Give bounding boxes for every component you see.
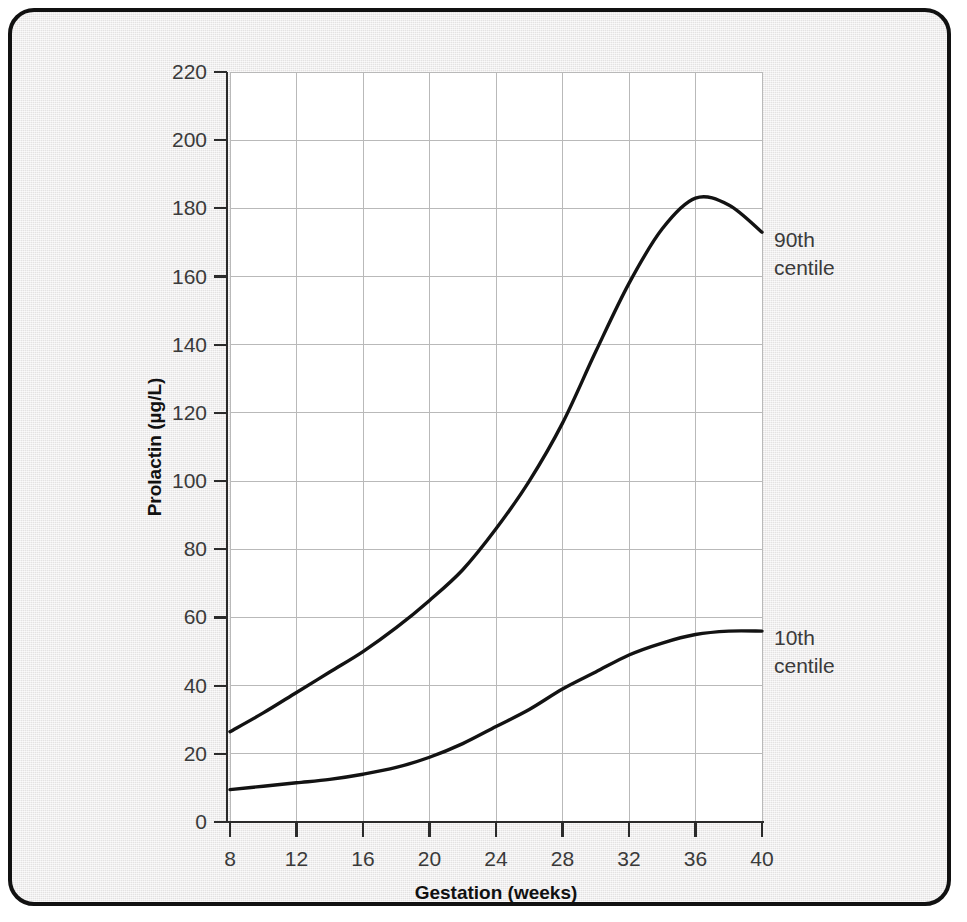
label-90th-centile-line1: 90th: [774, 228, 815, 251]
y-tick-label-40: 40: [184, 674, 207, 697]
x-axis-title: Gestation (weeks): [415, 882, 578, 903]
x-tick-label-20: 20: [418, 847, 441, 870]
y-tick-label-80: 80: [184, 537, 207, 560]
x-axis-tick-labels: 81216202428323640: [224, 847, 774, 870]
label-10th-centile-line2: centile: [774, 654, 835, 677]
x-tick-label-16: 16: [351, 847, 374, 870]
x-tick-label-8: 8: [224, 847, 236, 870]
y-axis-tick-labels: 020406080100120140160180200220: [172, 60, 207, 833]
label-90th-centile-line2: centile: [774, 256, 835, 279]
y-tick-label-100: 100: [172, 469, 207, 492]
x-tick-label-24: 24: [484, 847, 508, 870]
y-tick-label-160: 160: [172, 265, 207, 288]
x-tick-label-32: 32: [617, 847, 640, 870]
y-tick-label-60: 60: [184, 605, 207, 628]
y-tick-label-220: 220: [172, 60, 207, 83]
y-tick-label-180: 180: [172, 196, 207, 219]
x-tick-label-40: 40: [750, 847, 773, 870]
y-axis-title: Prolactin (µg/L): [144, 378, 165, 517]
y-tick-label-0: 0: [195, 810, 207, 833]
y-tick-label-20: 20: [184, 742, 207, 765]
x-tick-label-36: 36: [684, 847, 707, 870]
label-10th-centile-line1: 10th: [774, 626, 815, 649]
y-tick-label-200: 200: [172, 128, 207, 151]
x-tick-label-28: 28: [551, 847, 574, 870]
y-axis-tick-marks: [214, 72, 227, 822]
x-axis-tick-marks: [230, 822, 762, 837]
y-tick-label-120: 120: [172, 401, 207, 424]
y-tick-label-140: 140: [172, 333, 207, 356]
figure-frame: 020406080100120140160180200220 812162024…: [8, 8, 951, 906]
prolactin-gestation-line-chart: 020406080100120140160180200220 812162024…: [8, 8, 951, 906]
x-tick-label-12: 12: [285, 847, 308, 870]
